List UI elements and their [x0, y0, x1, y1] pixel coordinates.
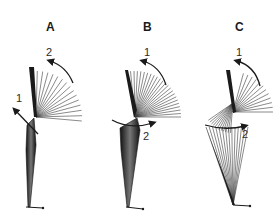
arrow-label-b-1: 1 — [144, 46, 150, 58]
foot-line — [26, 207, 43, 208]
segment-trace-line — [36, 91, 74, 117]
panel-label-a: A — [46, 20, 55, 34]
segment-trace-line — [233, 75, 248, 112]
foot-dot — [42, 207, 44, 209]
segment-trace-line — [36, 100, 79, 117]
segment-trace-line — [36, 117, 82, 121]
panel-a: A 2 1 — [15, 20, 82, 209]
segment-trace-line — [36, 79, 62, 117]
panel-label-b: B — [143, 20, 152, 34]
foot-line — [233, 205, 250, 206]
upper-segment — [29, 67, 37, 117]
segment-trace-line — [135, 85, 168, 117]
panel-b: B 1 2 — [112, 20, 181, 210]
foot-dot — [142, 208, 144, 210]
segment-trace-line — [36, 74, 53, 117]
leg-drawing-a — [15, 61, 82, 209]
arrow-label-b-2: 2 — [143, 130, 149, 142]
arrow-label-a-1: 1 — [16, 92, 22, 104]
foot-line — [126, 207, 143, 209]
panel-label-c: C — [235, 20, 244, 34]
foot-dot — [249, 205, 251, 207]
leg-drawing-c — [205, 61, 273, 207]
rotation-arrow-icon — [50, 61, 73, 83]
arrow-label-c-1: 1 — [236, 46, 242, 58]
shank-trace-line — [222, 127, 233, 205]
biomechanics-figure: A 2 1 B 1 2 C 1 2 — [0, 0, 274, 218]
rotation-arrow-icon — [237, 61, 260, 86]
lower-segment — [120, 118, 140, 207]
lower-segment — [26, 118, 36, 207]
panel-c: C 1 2 — [205, 20, 273, 207]
arrow-label-a-2: 2 — [46, 46, 52, 58]
